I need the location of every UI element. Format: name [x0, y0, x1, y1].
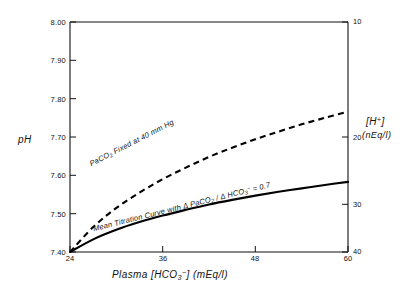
y2-axis-title-h: H	[369, 116, 377, 127]
ytick-label-7.80: 7.80	[36, 95, 66, 104]
y2-axis-title-bracket-close: ]	[381, 116, 384, 127]
x-axis-title: Plasma [HCO3−] (mEq/l)	[112, 268, 228, 282]
xtick-label-48: 48	[243, 254, 267, 263]
ytick-label-7.90: 7.90	[36, 56, 66, 65]
right-axis-ticks	[342, 22, 348, 252]
xtick-label-24: 24	[58, 254, 82, 263]
ytick-label-7.50: 7.50	[36, 210, 66, 219]
ytick-label-7.70: 7.70	[36, 133, 66, 142]
y2tick-label-30: 30	[353, 200, 375, 209]
ytick-label-8.00: 8.00	[36, 18, 66, 27]
xtick-label-36: 36	[151, 254, 175, 263]
chart-figure: 8.00 7.90 7.80 7.70 7.60 7.50 7.40 10 20…	[0, 0, 417, 291]
axis-frame	[70, 22, 348, 252]
xtick-label-60: 60	[336, 254, 360, 263]
y2tick-label-10: 10	[353, 17, 375, 26]
series-line-mean-titration	[70, 182, 348, 252]
ytick-label-7.60: 7.60	[36, 171, 66, 180]
y2-axis-title-species: [H+]	[366, 115, 385, 127]
bottom-axis-ticks	[70, 246, 348, 252]
y-axis-title: pH	[18, 134, 32, 145]
x-axis-title-prefix: Plasma	[112, 269, 151, 280]
y2-axis-title-units: (nEq/l)	[362, 130, 391, 140]
x-axis-title-species: HCO	[154, 269, 177, 280]
x-axis-title-units: (mEq/l)	[190, 269, 228, 280]
left-axis-ticks	[70, 22, 76, 252]
